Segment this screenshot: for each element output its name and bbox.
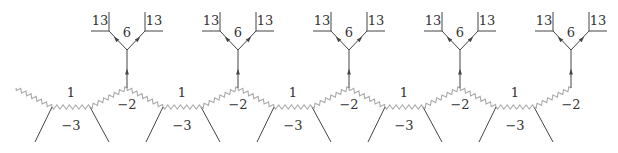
leg-left (35, 107, 52, 142)
label-branch-right: 13 (590, 13, 607, 28)
label-mid: −2 (561, 97, 580, 112)
label-bottom: −3 (172, 118, 191, 133)
label-mid: −2 (339, 97, 358, 112)
wavy-edge-bottom (163, 105, 201, 109)
label-top: 1 (400, 85, 408, 100)
label-branch-left: 13 (92, 13, 109, 28)
leg-right (534, 107, 553, 142)
label-bottom: −3 (61, 118, 80, 133)
label-bottom: −3 (394, 118, 413, 133)
wavy-edge-bottom (52, 105, 90, 109)
label-mid: −2 (117, 97, 136, 112)
label-branch-left: 13 (425, 13, 442, 28)
wavy-edge-bottom (274, 105, 312, 109)
label-branch-left: 13 (314, 13, 331, 28)
label-top: 1 (178, 85, 186, 100)
leg-left (368, 107, 385, 142)
leg-right (201, 107, 220, 142)
label-center: 6 (456, 25, 464, 40)
arrow-icon (569, 69, 573, 75)
label-mid: −2 (450, 97, 469, 112)
leg-right (423, 107, 442, 142)
label-top: 1 (511, 85, 519, 100)
quiver-diagram: 1−313136−21−313136−21−313136−21−313136−2… (0, 0, 618, 153)
label-branch-right: 13 (257, 13, 274, 28)
arrow-icon (458, 69, 462, 75)
label-bottom: −3 (505, 118, 524, 133)
label-top: 1 (289, 85, 297, 100)
arrow-icon (347, 69, 351, 75)
arrow-icon (125, 69, 129, 75)
label-mid: −2 (228, 97, 247, 112)
wavy-edge-bottom (496, 105, 534, 109)
label-branch-left: 13 (536, 13, 553, 28)
label-center: 6 (345, 25, 353, 40)
label-branch-right: 13 (146, 13, 163, 28)
diagram-canvas: 1−313136−21−313136−21−313136−21−313136−2… (0, 0, 618, 153)
label-top: 1 (67, 85, 75, 100)
leg-right (90, 107, 109, 142)
label-bottom: −3 (283, 118, 302, 133)
label-branch-right: 13 (479, 13, 496, 28)
label-center: 6 (234, 25, 242, 40)
leg-left (479, 107, 496, 142)
leg-right (312, 107, 331, 142)
leg-left (257, 107, 274, 142)
label-branch-right: 13 (368, 13, 385, 28)
wavy-edge-bottom (385, 105, 423, 109)
wavy-edge-start (16, 88, 52, 107)
label-branch-left: 13 (203, 13, 220, 28)
label-center: 6 (123, 25, 131, 40)
leg-left (146, 107, 163, 142)
arrow-icon (236, 69, 240, 75)
label-center: 6 (567, 25, 575, 40)
